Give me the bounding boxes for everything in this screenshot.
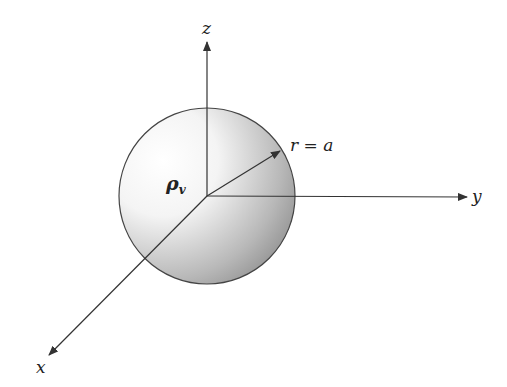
- rho-subscript: v: [179, 183, 187, 197]
- y-axis-label: y: [471, 186, 482, 206]
- radius-label: r = a: [290, 135, 333, 155]
- rho-symbol: ρ: [165, 172, 179, 194]
- x-axis-label: x: [36, 357, 46, 377]
- z-axis-label: z: [201, 18, 212, 38]
- sphere-diagram: z y x r = a ρv: [0, 0, 507, 387]
